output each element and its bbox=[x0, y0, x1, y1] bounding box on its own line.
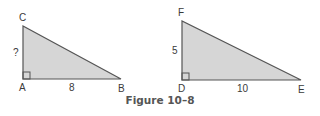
side-label-de: 10 bbox=[237, 83, 249, 94]
figure-caption: Figure 10–8 bbox=[126, 94, 195, 106]
vertex-label-b: B bbox=[118, 83, 125, 94]
vertex-label-e: E bbox=[298, 84, 305, 95]
triangle-abc: C ? A 8 B bbox=[13, 12, 125, 94]
vertex-label-c: C bbox=[19, 12, 26, 23]
triangle-def-shape bbox=[182, 21, 301, 80]
vertex-label-a: A bbox=[19, 82, 26, 93]
side-label-df: 5 bbox=[172, 45, 178, 56]
triangle-def: F 5 D 10 E bbox=[172, 7, 305, 95]
side-label-ab: 8 bbox=[69, 82, 75, 93]
side-label-ac: ? bbox=[13, 47, 19, 58]
vertex-label-d: D bbox=[178, 83, 185, 94]
triangle-abc-shape bbox=[23, 26, 121, 79]
vertex-label-f: F bbox=[178, 7, 184, 18]
figure-canvas: C ? A 8 B F 5 D 10 E Figure 10–8 bbox=[0, 0, 320, 116]
